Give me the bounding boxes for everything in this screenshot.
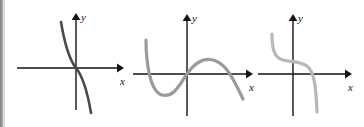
cubic-graphs-figure: x y x y x y: [0, 0, 364, 127]
y-axis-arrowhead-2: [183, 14, 192, 21]
cubic-curve-2: [146, 40, 243, 99]
graph-panel-1: x y: [0, 0, 130, 127]
y-axis-label-3: y: [297, 12, 303, 24]
y-axis-label-2: y: [191, 12, 197, 24]
x-axis-arrowhead-2: [246, 69, 253, 78]
y-axis-arrowhead-3: [289, 14, 298, 21]
graph-panel-3: x y: [258, 0, 364, 127]
x-axis-label-1: x: [119, 75, 125, 87]
x-axis-label-2: x: [248, 81, 254, 93]
y-axis-label-1: y: [80, 11, 86, 23]
y-axis-arrowhead-1: [72, 13, 81, 20]
x-axis-arrowhead-3: [345, 69, 352, 78]
cubic-curve-3: [272, 34, 317, 112]
x-axis-label-3: x: [347, 81, 353, 93]
x-axis-arrowhead-1: [117, 63, 124, 72]
graph-panel-2: x y: [130, 0, 258, 127]
